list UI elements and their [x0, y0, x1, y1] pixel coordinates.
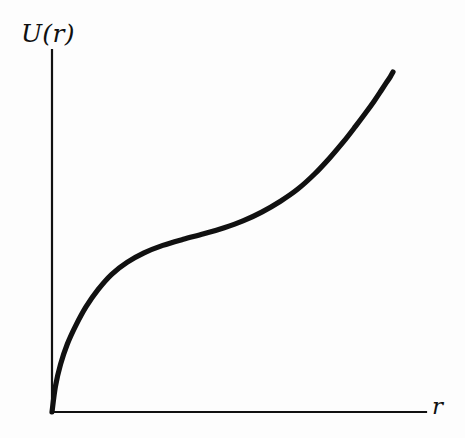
potential-curve: [52, 72, 393, 412]
plot-canvas: [0, 0, 465, 438]
potential-energy-figure: U(r) r: [0, 0, 465, 438]
x-axis-label: r: [432, 395, 443, 418]
y-axis-label: U(r): [21, 21, 75, 46]
